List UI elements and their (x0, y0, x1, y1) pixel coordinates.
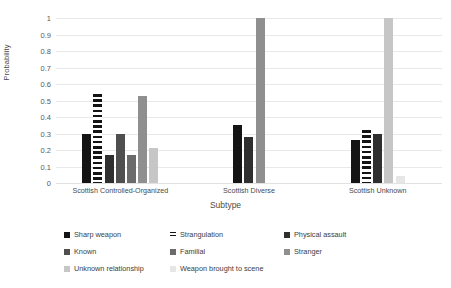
y-axis-tick-label: 0.4 (41, 113, 51, 122)
legend-item-label: Sharp weapon (74, 230, 121, 239)
y-axis-tick-label: 0.8 (41, 47, 51, 56)
bar (373, 134, 382, 184)
legend-swatch-icon (284, 249, 290, 255)
bar (362, 130, 371, 183)
x-axis-category-label: Scottish Unknown (349, 186, 407, 195)
x-axis-title: Subtype (0, 200, 451, 210)
legend-item-label: Strangulation (180, 230, 223, 239)
bar (233, 125, 242, 183)
y-axis-tick-label: 0.3 (41, 129, 51, 138)
legend-item-label: Physical assault (294, 230, 346, 239)
legend-item[interactable]: Familial (170, 247, 284, 256)
legend-item-label: Weapon brought to scene (180, 264, 263, 273)
y-axis-title: Probability (2, 19, 11, 107)
legend-swatch-icon (64, 249, 70, 255)
chart-legend: Sharp weaponStrangulationPhysical assaul… (64, 230, 394, 273)
legend-item-label: Unknown relationship (74, 264, 144, 273)
y-axis-tick-label: 0.6 (41, 80, 51, 89)
legend-item-label: Familial (180, 247, 205, 256)
legend-item[interactable]: Sharp weapon (64, 230, 170, 239)
legend-swatch-icon (284, 232, 290, 238)
legend-item[interactable]: Physical assault (284, 230, 394, 239)
bar (244, 137, 253, 183)
legend-item[interactable]: Unknown relationship (64, 264, 170, 273)
legend-item[interactable]: Weapon brought to scene (170, 264, 284, 273)
bar (384, 18, 393, 183)
y-axis-tick-label: 0.2 (41, 146, 51, 155)
legend-item-label: Stranger (294, 247, 322, 256)
x-axis-category-label: Scottish Controlled-Organized (72, 186, 168, 195)
bar-group (313, 18, 442, 183)
y-axis-tick-label: 0 (47, 179, 51, 188)
plot-area: 10.90.80.70.60.50.40.30.20.10 (56, 18, 442, 183)
x-axis-category-label: Scottish Diverse (223, 186, 275, 195)
legend-swatch-icon (64, 266, 70, 272)
legend-item-label: Known (74, 247, 96, 256)
y-axis-tick-label: 0.9 (41, 30, 51, 39)
legend-swatch-icon (64, 232, 70, 238)
legend-item[interactable]: Known (64, 247, 170, 256)
y-axis-tick-label: 1 (47, 14, 51, 23)
bar (351, 140, 360, 183)
bar (149, 148, 158, 183)
y-axis-tick-label: 0.1 (41, 162, 51, 171)
bar-group (185, 18, 314, 183)
legend-swatch-icon (170, 266, 176, 272)
gridline (56, 183, 442, 184)
bar (256, 18, 265, 183)
chart-figure: Probability 10.90.80.70.60.50.40.30.20.1… (0, 0, 451, 288)
bar (93, 94, 102, 183)
bar (82, 134, 91, 184)
legend-swatch-icon (170, 249, 176, 255)
legend-item[interactable]: Strangulation (170, 230, 284, 239)
y-axis-tick-label: 0.7 (41, 63, 51, 72)
bar-group (56, 18, 185, 183)
y-axis-tick-label: 0.5 (41, 96, 51, 105)
bar (127, 155, 136, 183)
legend-swatch-icon (170, 232, 176, 238)
legend-item[interactable]: Stranger (284, 247, 394, 256)
bar (396, 176, 405, 183)
bar (138, 96, 147, 183)
bar (105, 155, 114, 183)
bar (116, 134, 125, 184)
